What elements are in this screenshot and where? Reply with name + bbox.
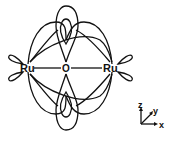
axes-icon: z y x <box>138 100 164 130</box>
z-axis-label: z <box>138 100 143 110</box>
top-orbital-lobe <box>30 6 110 62</box>
x-axis-label: x <box>159 120 164 130</box>
y-axis <box>141 113 152 124</box>
ru-left-label: Ru <box>20 62 35 74</box>
x-arrowhead <box>154 122 158 126</box>
y-axis-label: y <box>153 106 158 116</box>
ru-right-d-lobes <box>118 55 132 81</box>
ru-right-label: Ru <box>103 62 118 74</box>
o-center-label: O <box>62 63 70 74</box>
orbital-diagram: Ru O Ru z y x <box>0 0 172 141</box>
bottom-orbital-lobe <box>30 74 110 130</box>
